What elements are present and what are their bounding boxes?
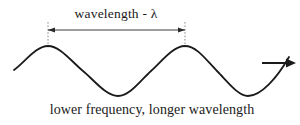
wavelength-label-text: wavelength - λ	[75, 6, 158, 21]
figure-caption-text: lower frequency, longer wavelength	[50, 102, 255, 117]
wavelength-label: wavelength - λ	[0, 5, 300, 22]
arrowhead-left-icon	[48, 27, 55, 32]
wave-diagram: wavelength - λ lower frequency, longer w…	[0, 0, 300, 125]
propagation-arrow-icon	[286, 59, 296, 68]
arrowhead-right-icon	[178, 27, 185, 32]
wave-curve	[14, 46, 289, 96]
figure-caption: lower frequency, longer wavelength	[0, 101, 300, 119]
